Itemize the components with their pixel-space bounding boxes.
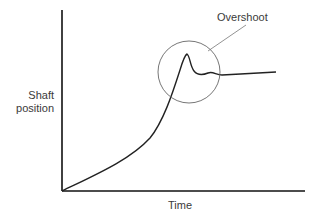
y-axis-label-line1: Shaft (0, 89, 54, 102)
overshoot-label: Overshoot (217, 11, 268, 24)
overshoot-leader-line (208, 25, 246, 51)
y-axis-label-line2: position (0, 102, 54, 115)
response-curve (62, 54, 276, 191)
y-axis-label: Shaft position (0, 89, 54, 115)
x-axis-label: Time (168, 199, 192, 212)
